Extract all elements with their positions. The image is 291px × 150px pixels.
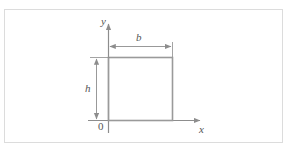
origin-label: 0 (98, 121, 104, 132)
diagram-canvas (0, 0, 291, 150)
rectangle-cross-section (109, 58, 173, 121)
y-axis-label: y (101, 16, 106, 27)
x-axis-label: x (199, 124, 204, 135)
width-dimension-label: b (136, 32, 142, 43)
figure-container: y x b h 0 (0, 0, 291, 150)
height-dimension-label: h (85, 83, 91, 94)
